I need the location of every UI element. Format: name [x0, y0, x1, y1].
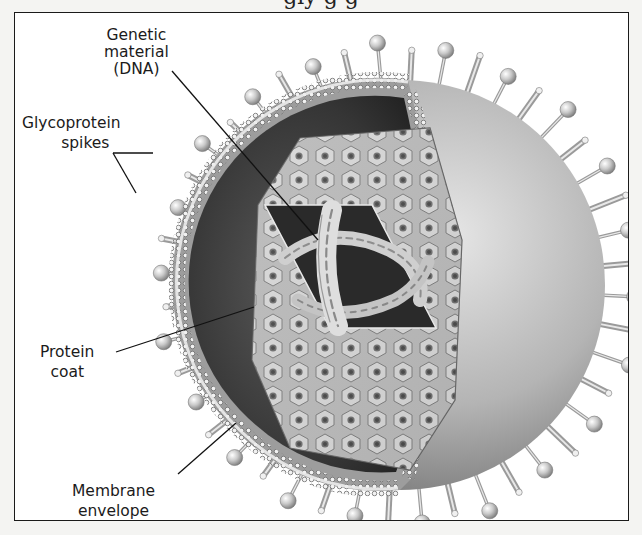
spike-knob	[280, 493, 296, 509]
spike-knob	[599, 158, 615, 174]
spike-knob	[227, 450, 243, 466]
leader-line-spikes-b	[113, 153, 136, 193]
spike-knob	[482, 503, 498, 519]
label-line: Membrane	[72, 481, 155, 501]
spike-knob	[369, 35, 385, 51]
spike-knob	[537, 462, 553, 478]
label-genetic-material: Genetic material (DNA)	[104, 27, 169, 78]
spike-knob	[560, 102, 576, 118]
spike-knob	[305, 59, 321, 75]
label-line: Genetic	[104, 27, 169, 44]
label-line: (DNA)	[104, 61, 169, 78]
label-line: Protein	[40, 342, 94, 362]
spike-knob	[414, 515, 430, 531]
spike-knob	[194, 136, 210, 152]
spike-knob	[438, 42, 454, 58]
label-glycoprotein-spikes: Glycoprotein spikes	[22, 113, 121, 153]
spike-knob	[500, 68, 516, 84]
spike-knob	[621, 357, 637, 373]
label-membrane-envelope: Membrane envelope	[72, 481, 155, 521]
spike-knob	[621, 222, 637, 238]
spike-knob	[347, 508, 363, 524]
label-line: coat	[40, 362, 94, 382]
label-protein-coat: Protein coat	[40, 342, 94, 382]
label-line: envelope	[72, 501, 155, 521]
label-line: material	[104, 44, 169, 61]
spike-knob	[245, 89, 261, 105]
label-line: Glycoprotein	[22, 113, 121, 133]
spike-knob	[586, 416, 602, 432]
spike-knob	[153, 265, 169, 281]
virus-illustration	[0, 0, 642, 535]
spike-knob	[627, 289, 642, 305]
label-line: spikes	[22, 133, 121, 153]
leader-line-membrane-envelope	[178, 423, 236, 474]
